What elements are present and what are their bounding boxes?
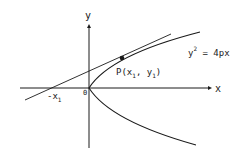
x-axis-arrow-icon — [208, 86, 212, 90]
point-p — [120, 56, 125, 61]
equation-label: y2 = 4px — [188, 45, 230, 58]
parabola-tangent-diagram: y x 0 y2 = 4px P(x1, y1) -x1 — [0, 0, 236, 158]
point-p-label: P(x1, y1) — [116, 67, 161, 79]
y-axis-arrow-icon — [87, 24, 91, 28]
x-axis-label: x — [215, 83, 221, 94]
intercept-label: -x1 — [47, 91, 62, 103]
y-axis-label: y — [85, 10, 91, 21]
origin-label: 0 — [83, 89, 87, 97]
